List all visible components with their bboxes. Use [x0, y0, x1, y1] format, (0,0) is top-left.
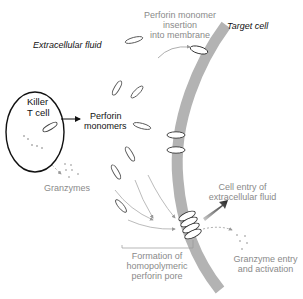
perforin-insertion-label: Perforin monomer insertion into membrane	[130, 10, 230, 40]
killer-t-cell-label: Killer T cell	[27, 96, 50, 118]
granzyme-dots	[64, 163, 79, 178]
pore-formation-label: Formation of homopolymeric perforin pore	[117, 251, 197, 281]
granzymes-label: Granzymes	[44, 183, 90, 193]
perforin-monomers-label: Perforin monomers	[84, 111, 127, 131]
cell-entry-label: Cell entry of extracellular fluid	[195, 182, 290, 202]
granzyme-entry-label: Granzyme entry and activation	[228, 254, 303, 274]
target-cell-label: Target cell	[227, 21, 268, 31]
extracellular-fluid-label: Extracellular fluid	[33, 40, 102, 50]
